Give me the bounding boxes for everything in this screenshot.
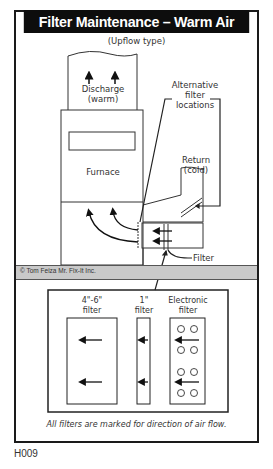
furnace-diagram <box>0 0 273 469</box>
filter-electronic <box>170 318 205 404</box>
copyright-band: © Tom Feiza Mr. Fix-It Inc. <box>16 265 257 280</box>
furnace-panel <box>69 132 135 150</box>
filter-type-label-4-6: 4"-6" filter <box>62 296 122 316</box>
return-duct <box>143 167 204 222</box>
copyright-text: © Tom Feiza Mr. Fix-It Inc. <box>20 267 96 274</box>
filter-4-6-inch <box>67 318 117 404</box>
furnace-label: Furnace <box>70 167 136 177</box>
filter-type-label-electronic: Electronic filter <box>162 296 214 316</box>
alternative-filter-label: Alternative filter locations <box>165 80 225 110</box>
filter-1-inch <box>137 318 150 404</box>
filter-type-label-1: 1" filter <box>124 296 164 316</box>
filter-housing <box>142 223 203 248</box>
return-label: Return (cold) <box>176 155 216 175</box>
filter-label: Filter <box>193 253 214 263</box>
discharge-label: Discharge (warm) <box>70 84 136 104</box>
electrode-circles <box>178 326 198 397</box>
figure-code: H009 <box>14 448 38 459</box>
caption: All filters are marked for direction of … <box>0 420 273 429</box>
